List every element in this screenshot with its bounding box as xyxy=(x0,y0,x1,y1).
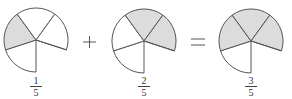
numerator: 1 xyxy=(26,76,46,85)
numerator: 3 xyxy=(241,76,261,85)
circle-1 xyxy=(4,8,68,72)
circle-2 xyxy=(112,9,176,73)
fraction-label-2: 2 5 xyxy=(134,76,154,97)
denominator: 5 xyxy=(134,88,154,97)
denominator: 5 xyxy=(241,88,261,97)
equals-sign xyxy=(191,39,205,45)
fraction-label-3: 3 5 xyxy=(241,76,261,97)
circle-3 xyxy=(219,9,283,73)
fraction-label-1: 1 5 xyxy=(26,76,46,97)
numerator: 2 xyxy=(134,76,154,85)
denominator: 5 xyxy=(26,88,46,97)
plus-sign xyxy=(83,36,96,48)
